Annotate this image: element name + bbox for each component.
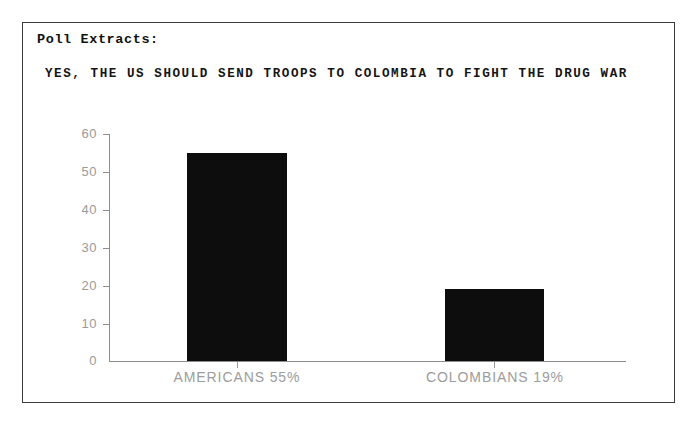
y-tick-mark-40 (103, 210, 110, 211)
y-tick-label-50: 50 (61, 165, 97, 178)
x-axis-line (109, 361, 626, 362)
y-tick-mark-60 (103, 134, 110, 135)
y-tick-group-50: 50 (23, 172, 97, 173)
y-tick-label-40: 40 (61, 203, 97, 216)
y-tick-label-20: 20 (61, 279, 97, 292)
y-tick-label-10: 10 (61, 317, 97, 330)
bar-americans (187, 153, 287, 361)
poll-extract-frame: Poll Extracts: YES, THE US SHOULD SEND T… (22, 22, 675, 403)
y-tick-mark-20 (103, 286, 110, 287)
y-tick-group-10: 10 (23, 324, 97, 325)
x-axis-label-colombians: COLOMBIANS 19% (402, 369, 588, 385)
x-tick-mark-colombians (494, 362, 495, 368)
y-tick-label-60: 60 (61, 127, 97, 140)
y-tick-mark-50 (103, 172, 110, 173)
y-tick-group-40: 40 (23, 210, 97, 211)
y-tick-label-0: 0 (61, 354, 97, 367)
y-tick-group-30: 30 (23, 248, 97, 249)
y-tick-mark-10 (103, 324, 110, 325)
x-tick-mark-americans (237, 362, 238, 368)
y-tick-label-30: 30 (61, 241, 97, 254)
x-axis-label-americans: AMERICANS 55% (147, 369, 327, 385)
bar-chart-plot-area: 60 50 40 30 20 10 0 (23, 23, 676, 404)
bar-colombians (445, 289, 544, 361)
y-tick-group-0: 0 (23, 361, 97, 362)
y-tick-group-60: 60 (23, 134, 97, 135)
y-tick-mark-30 (103, 248, 110, 249)
y-tick-group-20: 20 (23, 286, 97, 287)
